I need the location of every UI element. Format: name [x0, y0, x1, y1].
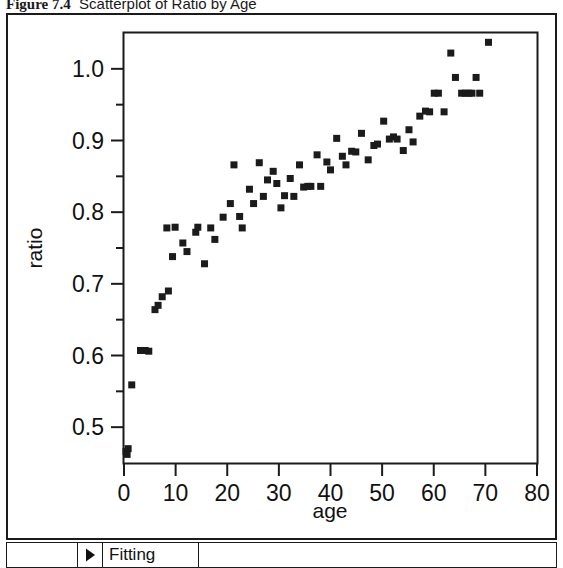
- data-point: [333, 135, 340, 142]
- y-axis-title: ratio: [23, 228, 46, 269]
- scatter-plot[interactable]: 0.50.60.70.80.91.0 01020304050607080 age…: [8, 15, 555, 538]
- plot-window: 0.50.60.70.80.91.0 01020304050607080 age…: [6, 13, 557, 540]
- data-point: [207, 224, 214, 231]
- y-tick-label: 0.6: [72, 343, 104, 369]
- data-point: [327, 166, 334, 173]
- data-point: [230, 161, 237, 168]
- data-point: [246, 186, 253, 193]
- x-tick-label: 20: [214, 480, 240, 506]
- x-tick-label: 0: [118, 480, 131, 506]
- data-point: [236, 213, 243, 220]
- data-point: [264, 176, 271, 183]
- toolbar-left-cell: [6, 542, 78, 568]
- data-point: [405, 126, 412, 133]
- data-point: [172, 224, 179, 231]
- y-tick-label: 0.5: [72, 414, 104, 440]
- data-point: [358, 130, 365, 137]
- data-point: [452, 74, 459, 81]
- data-point: [227, 200, 234, 207]
- data-point: [380, 118, 387, 125]
- data-point: [374, 141, 381, 148]
- plot-frame: [124, 33, 538, 464]
- data-point: [342, 161, 349, 168]
- data-point: [281, 192, 288, 199]
- y-tick-label: 1.0: [72, 56, 104, 82]
- data-point: [296, 161, 303, 168]
- x-tick-label: 50: [369, 480, 395, 506]
- data-point: [447, 50, 454, 57]
- x-axis-ticks: [124, 463, 537, 476]
- data-point: [317, 183, 324, 190]
- data-point: [220, 214, 227, 221]
- data-point: [270, 168, 277, 175]
- data-point: [194, 224, 201, 231]
- data-point: [426, 108, 433, 115]
- data-point: [339, 153, 346, 160]
- data-point: [468, 90, 475, 97]
- y-axis-tick-labels: 0.50.60.70.80.91.0: [72, 56, 104, 440]
- x-tick-label: 10: [163, 480, 189, 506]
- data-point: [273, 180, 280, 187]
- data-point: [485, 39, 492, 46]
- data-point: [155, 302, 162, 309]
- data-point: [169, 253, 176, 260]
- data-point: [211, 236, 218, 243]
- y-tick-label: 0.9: [72, 128, 104, 154]
- data-point: [201, 260, 208, 267]
- data-point: [394, 136, 401, 143]
- bottom-toolbar: Fitting: [6, 542, 557, 568]
- x-axis-title: age: [312, 499, 347, 522]
- x-tick-label: 60: [421, 480, 447, 506]
- data-point: [352, 148, 359, 155]
- y-tick-label: 0.8: [72, 199, 104, 225]
- data-point: [290, 193, 297, 200]
- y-axis-ticks: [111, 69, 124, 427]
- data-point: [473, 74, 480, 81]
- data-point: [183, 248, 190, 255]
- data-point: [314, 151, 321, 158]
- toolbar-right-cell: [198, 542, 557, 568]
- data-point: [239, 224, 246, 231]
- figure-caption-label: Figure 7.4: [6, 0, 71, 12]
- data-point: [145, 348, 152, 355]
- data-point: [256, 159, 263, 166]
- figure-caption-text: Scatterplot of Ratio by Age: [79, 0, 257, 12]
- data-point: [435, 90, 442, 97]
- data-point: [163, 224, 170, 231]
- data-point: [323, 159, 330, 166]
- data-point: [476, 90, 483, 97]
- data-point: [159, 293, 166, 300]
- fitting-label: Fitting: [103, 545, 155, 565]
- data-point: [124, 451, 131, 458]
- data-point: [287, 175, 294, 182]
- data-point: [307, 183, 314, 190]
- triangle-right-icon[interactable]: [78, 543, 103, 567]
- figure-caption: Figure 7.4 Scatterplot of Ratio by Age: [6, 0, 546, 12]
- x-tick-label: 80: [524, 480, 550, 506]
- data-point: [250, 200, 257, 207]
- x-tick-label: 30: [266, 480, 292, 506]
- y-tick-label: 0.7: [72, 271, 104, 297]
- data-point: [400, 147, 407, 154]
- data-point: [260, 193, 267, 200]
- data-point: [128, 381, 135, 388]
- fitting-panel-header[interactable]: Fitting: [77, 542, 199, 568]
- data-point: [277, 204, 284, 211]
- data-point: [165, 288, 172, 295]
- data-point: [410, 138, 417, 145]
- data-point: [365, 156, 372, 163]
- x-tick-label: 70: [473, 480, 499, 506]
- data-point: [179, 239, 186, 246]
- data-point: [441, 108, 448, 115]
